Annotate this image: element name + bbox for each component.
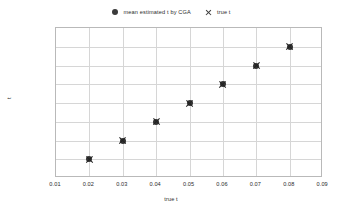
- data-point: [218, 80, 227, 89]
- x-tick-label: 0.08: [274, 181, 304, 187]
- chart-legend: mean estimated t by CGA true t: [0, 8, 342, 16]
- x-tick-label: 0.07: [240, 181, 270, 187]
- data-point: [252, 61, 261, 70]
- gridline-horizontal: [56, 159, 321, 160]
- gridline-vertical: [256, 28, 257, 176]
- scatter-chart: mean estimated t by CGA true t 0.09 0.08…: [0, 0, 342, 215]
- cross-marker-icon: [205, 8, 213, 16]
- gridline-horizontal: [56, 141, 321, 142]
- x-tick-label: 0.05: [174, 181, 204, 187]
- x-axis-title: true t: [0, 196, 342, 202]
- x-tick-label: 0.02: [73, 181, 103, 187]
- gridline-vertical: [156, 28, 157, 176]
- data-point: [118, 136, 127, 145]
- x-tick-label: 0.01: [40, 181, 70, 187]
- gridline-horizontal: [56, 47, 321, 48]
- data-point: [85, 155, 94, 164]
- legend-item-true-t: true t: [205, 8, 231, 16]
- legend-label-mean-estimated-t: mean estimated t by CGA: [123, 8, 191, 16]
- data-point: [185, 99, 194, 108]
- gridline-horizontal: [56, 84, 321, 85]
- x-tick-label: 0.03: [107, 181, 137, 187]
- legend-item-mean-estimated-t: mean estimated t by CGA: [111, 8, 191, 16]
- gridline-horizontal: [56, 66, 321, 67]
- x-tick-label: 0.04: [140, 181, 170, 187]
- plot-area: [55, 27, 322, 177]
- gridline-vertical: [123, 28, 124, 176]
- gridline-vertical: [223, 28, 224, 176]
- data-point: [152, 117, 161, 126]
- gridline-horizontal: [56, 122, 321, 123]
- data-point: [285, 42, 294, 51]
- x-tick-label: 0.09: [307, 181, 337, 187]
- y-axis-title: t: [6, 97, 12, 99]
- legend-label-true-t: true t: [217, 8, 231, 16]
- x-tick-label: 0.06: [207, 181, 237, 187]
- circle-marker-icon: [111, 8, 119, 16]
